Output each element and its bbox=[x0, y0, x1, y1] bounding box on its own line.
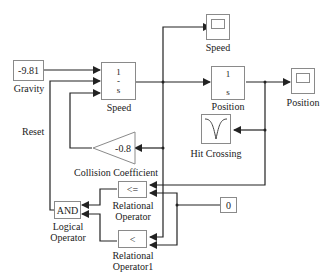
gravity-constant-block[interactable]: -9.81 bbox=[13, 60, 44, 81]
label-line2: Operator1 bbox=[108, 261, 158, 272]
hit-crossing-label: Hit Crossing bbox=[186, 148, 246, 159]
speed-integrator-label: Speed bbox=[100, 102, 138, 113]
position-scope-label: Position bbox=[283, 97, 323, 108]
relational-operator-label: Relational Operator bbox=[110, 200, 156, 222]
hit-crossing-block[interactable] bbox=[201, 114, 231, 144]
label-line2: Operator bbox=[110, 211, 156, 222]
relational-operator-symbol: <= bbox=[127, 184, 138, 195]
speed-scope-block[interactable] bbox=[206, 14, 230, 40]
label-line1: Relational bbox=[108, 250, 158, 261]
speed-scope-label: Speed bbox=[200, 42, 236, 53]
integrator-transfer-function: 1 s bbox=[226, 70, 231, 97]
relational-operator-block[interactable]: <= bbox=[118, 181, 147, 198]
relational-operator1-block[interactable]: < bbox=[118, 230, 147, 248]
position-scope-block[interactable] bbox=[291, 68, 315, 94]
position-integrator-block[interactable]: 1 s bbox=[211, 66, 245, 100]
reset-annotation: Reset bbox=[22, 126, 44, 137]
speed-integrator-block[interactable]: 1 - s bbox=[101, 62, 136, 100]
scope-screen-icon bbox=[211, 19, 225, 29]
constant-zero-value: 0 bbox=[226, 200, 231, 211]
integrator-transfer-function: 1 - s bbox=[116, 68, 121, 95]
collision-gain-value[interactable]: -0.8 bbox=[113, 143, 133, 154]
collision-gain-label: Collision Coefficient bbox=[68, 167, 164, 178]
label-line1: Logical bbox=[46, 221, 90, 232]
scope-screen-icon bbox=[296, 73, 310, 83]
relational-operator1-label: Relational Operator1 bbox=[108, 250, 158, 272]
label-line1: Relational bbox=[110, 200, 156, 211]
position-integrator-label: Position bbox=[205, 101, 251, 112]
gravity-value: -9.81 bbox=[18, 65, 39, 76]
logical-operator-label: Logical Operator bbox=[46, 221, 90, 243]
denominator: s bbox=[117, 86, 121, 95]
gravity-label: Gravity bbox=[10, 83, 48, 94]
denominator: s bbox=[226, 88, 230, 97]
logical-operator-block[interactable]: AND bbox=[54, 201, 81, 219]
logical-operator-symbol: AND bbox=[57, 205, 79, 216]
relational-operator1-symbol: < bbox=[130, 234, 136, 245]
constant-zero-block[interactable]: 0 bbox=[220, 197, 237, 213]
hit-crossing-icon bbox=[203, 116, 229, 142]
label-line2: Operator bbox=[46, 232, 90, 243]
